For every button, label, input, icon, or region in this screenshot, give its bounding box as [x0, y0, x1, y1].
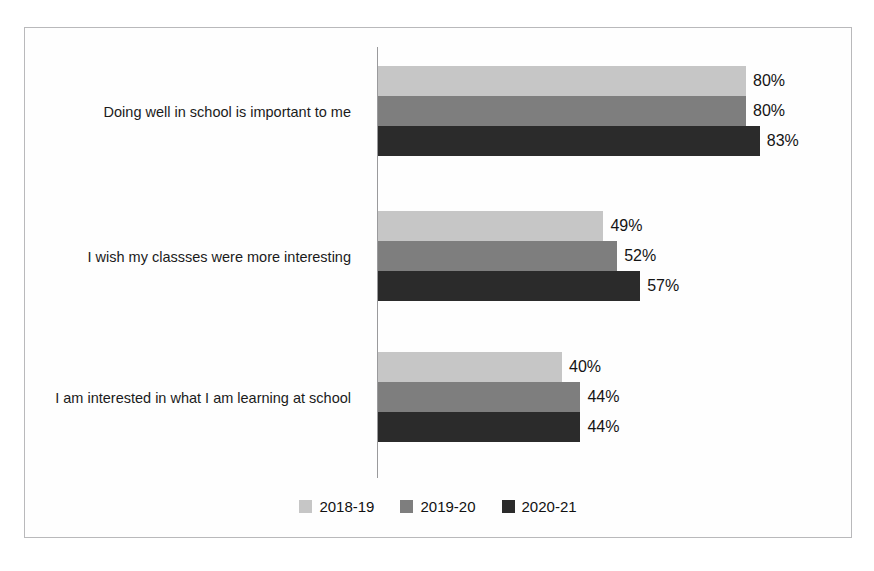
- bar-value-label: 52%: [624, 247, 656, 265]
- legend-label: 2020-21: [522, 498, 577, 515]
- category-label: Doing well in school is important to me: [21, 104, 351, 121]
- category-label: I am interested in what I am learning at…: [21, 390, 351, 407]
- bar-group: Doing well in school is important to me …: [25, 66, 851, 158]
- bar-group: I wish my classses were more interesting…: [25, 211, 851, 303]
- chart-frame: Doing well in school is important to me …: [24, 27, 852, 538]
- legend-swatch-icon: [502, 500, 515, 513]
- bar-value-label: 57%: [647, 277, 679, 295]
- bar-2020-21[interactable]: [378, 412, 580, 442]
- bar-stack: 40% 44% 44%: [378, 352, 851, 444]
- bar-value-label: 80%: [753, 102, 785, 120]
- chart-legend: 2018-19 2019-20 2020-21: [25, 498, 851, 515]
- bar-2018-19[interactable]: [378, 211, 603, 241]
- bar-stack: 49% 52% 57%: [378, 211, 851, 303]
- bar-2019-20[interactable]: [378, 241, 617, 271]
- bar-2020-21[interactable]: [378, 126, 760, 156]
- legend-item-2020-21[interactable]: 2020-21: [502, 498, 577, 515]
- bar-group: I am interested in what I am learning at…: [25, 352, 851, 444]
- bar-value-label: 80%: [753, 72, 785, 90]
- bar-value-label: 49%: [610, 217, 642, 235]
- bar-value-label: 83%: [767, 132, 799, 150]
- legend-item-2018-19[interactable]: 2018-19: [299, 498, 374, 515]
- bar-2018-19[interactable]: [378, 352, 562, 382]
- bar-2020-21[interactable]: [378, 271, 640, 301]
- legend-label: 2018-19: [319, 498, 374, 515]
- bar-2018-19[interactable]: [378, 66, 746, 96]
- bar-value-label: 44%: [587, 418, 619, 436]
- bar-value-label: 40%: [569, 358, 601, 376]
- category-label: I wish my classses were more interesting: [21, 249, 351, 266]
- legend-swatch-icon: [299, 500, 312, 513]
- plot-area: Doing well in school is important to me …: [25, 28, 851, 537]
- bar-stack: 80% 80% 83%: [378, 66, 851, 158]
- bar-2019-20[interactable]: [378, 96, 746, 126]
- legend-swatch-icon: [400, 500, 413, 513]
- legend-label: 2019-20: [420, 498, 475, 515]
- bar-value-label: 44%: [587, 388, 619, 406]
- legend-item-2019-20[interactable]: 2019-20: [400, 498, 475, 515]
- bar-2019-20[interactable]: [378, 382, 580, 412]
